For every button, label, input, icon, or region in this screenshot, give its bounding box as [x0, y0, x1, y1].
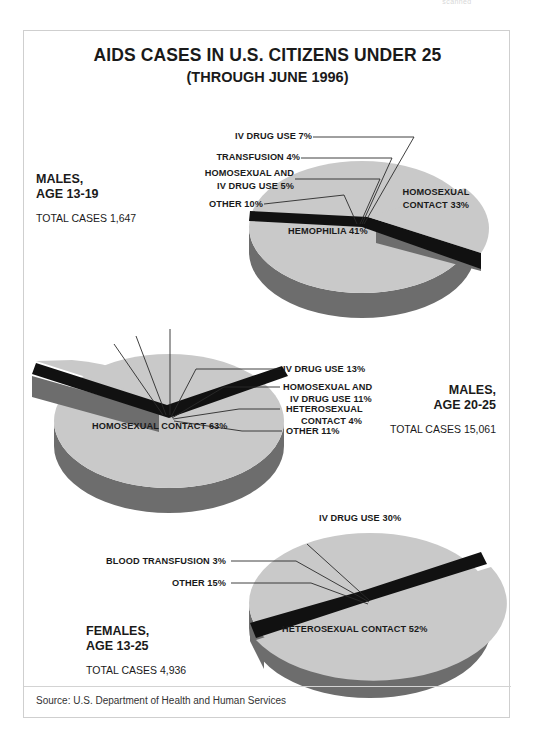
- chart-frame: AIDS CASES IN U.S. CITIZENS UNDER 25 (TH…: [23, 30, 510, 718]
- group-total-males-13-19: TOTAL CASES 1,647: [36, 212, 136, 224]
- pie1-label-homosexual-and-iv-2: IV DRUG USE 5%: [124, 180, 294, 193]
- group-title-males-13-19: MALES, AGE 13-19: [36, 172, 99, 202]
- group-age: AGE 13-25: [86, 639, 149, 653]
- pie1-label-iv-drug-use: IV DRUG USE 7%: [134, 130, 312, 143]
- pie1-label-transfusion: TRANSFUSION 4%: [134, 151, 300, 164]
- group-name: FEMALES,: [86, 624, 149, 638]
- pie1-label-homosexual-and-iv-1: HOMOSEXUAL AND: [124, 167, 294, 180]
- group-age: AGE 20-25: [433, 398, 496, 412]
- pie1-label-homosexual-contact-2: CONTACT 33%: [381, 199, 491, 212]
- pie-chart-females-13-25: [231, 533, 507, 698]
- group-name: MALES,: [36, 172, 83, 186]
- source-note: Source: U.S. Department of Health and Hu…: [36, 695, 286, 706]
- pie1-label-hemophilia: HEMOPHILIA 41%: [288, 225, 368, 238]
- pie2-label-other: OTHER 11%: [286, 425, 340, 438]
- pie3-label-heterosexual-contact: HETEROSEXUAL CONTACT 52%: [282, 623, 428, 636]
- scan-watermark: scanned: [392, 0, 522, 12]
- chart-page: scanned AIDS CASES IN U.S. CITIZENS UNDE…: [0, 0, 533, 748]
- pie1-label-other: OTHER 10%: [134, 198, 263, 211]
- group-name: MALES,: [449, 383, 496, 397]
- pie2-label-homosexual-contact: HOMOSEXUAL CONTACT 63%: [92, 420, 228, 433]
- group-age: AGE 13-19: [36, 187, 99, 201]
- group-title-females-13-25: FEMALES, AGE 13-25: [86, 624, 149, 654]
- pie-chart-males-13-19: [249, 137, 489, 318]
- group-title-males-20-25: MALES, AGE 20-25: [346, 383, 496, 413]
- pie2-label-iv-drug-use: IV DRUG USE 13%: [283, 363, 365, 376]
- source-divider: [24, 686, 511, 687]
- pie3-label-iv-drug-use: IV DRUG USE 30%: [319, 512, 401, 525]
- pie3-label-blood-transfusion: BLOOD TRANSFUSION 3%: [74, 555, 226, 568]
- pie1-label-homosexual-contact-1: HOMOSEXUAL: [381, 186, 491, 199]
- group-total-females-13-25: TOTAL CASES 4,936: [86, 664, 186, 676]
- group-total-males-20-25: TOTAL CASES 15,061: [346, 423, 496, 435]
- pie3-label-other: OTHER 15%: [74, 577, 226, 590]
